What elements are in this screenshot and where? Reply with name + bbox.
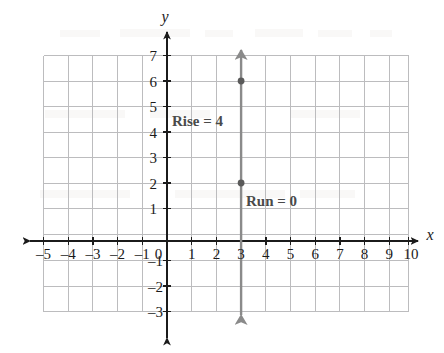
data-point-lower [238, 180, 245, 187]
y-tick-label--3: –3 [147, 304, 163, 320]
x-tick-label-6: 6 [311, 246, 319, 262]
y-tick-label-5: 5 [150, 99, 158, 115]
y-tick-label-6: 6 [150, 74, 158, 90]
rise-annotation: Rise = 4 [172, 113, 224, 129]
x-tick-label-8: 8 [361, 246, 369, 262]
x-tick-label-3: 3 [237, 246, 245, 262]
y-tick-label-1: 1 [150, 201, 158, 217]
run-annotation: Run = 0 [246, 193, 297, 209]
data-point-upper [238, 78, 245, 85]
x-tick-label--5: –5 [35, 246, 51, 262]
x-tick-label-10: 10 [404, 246, 419, 262]
y-tick-label-4: 4 [150, 125, 158, 141]
coordinate-plane-svg: –5 –4 –3 –2 –1 0 1 2 3 4 5 6 7 8 9 10 7 … [0, 0, 444, 353]
y-tick-label-3: 3 [150, 150, 158, 166]
y-tick-label--2: –2 [147, 279, 163, 295]
y-tick-label-2: 2 [150, 176, 158, 192]
x-tick-label-4: 4 [262, 246, 270, 262]
x-tick-label--2: –2 [109, 246, 125, 262]
x-tick-label-1: 1 [188, 246, 196, 262]
x-tick-label-9: 9 [386, 246, 394, 262]
x-axis-label: x [425, 226, 433, 243]
y-tick-label--1: –1 [147, 253, 163, 269]
x-tick-label--4: –4 [60, 246, 77, 262]
y-tick-label-7: 7 [150, 48, 158, 64]
x-tick-label-5: 5 [287, 246, 295, 262]
y-axis-label: y [159, 8, 169, 26]
graph-figure: –5 –4 –3 –2 –1 0 1 2 3 4 5 6 7 8 9 10 7 … [0, 0, 444, 353]
x-tick-label-2: 2 [213, 246, 221, 262]
x-tick-label--3: –3 [84, 246, 100, 262]
x-tick-label-7: 7 [336, 246, 344, 262]
grid-lines [44, 56, 409, 312]
